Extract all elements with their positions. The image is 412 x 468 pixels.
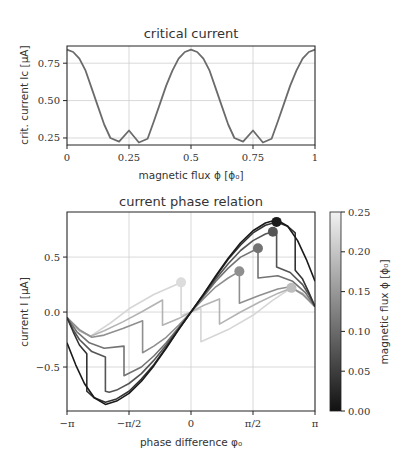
critical-point-marker	[234, 266, 244, 276]
y-axis-label: crit. current Iᴄ [μA]	[18, 45, 30, 144]
colorbar-gradient	[330, 212, 341, 411]
chart-title: current phase relation	[119, 194, 263, 209]
colorbar-ticks: 0.000.050.100.150.200.25	[341, 207, 370, 417]
x-tick-label: 0.25	[118, 152, 140, 163]
x-tick-label: 0.5	[183, 152, 199, 163]
y-tick-label: 0.75	[38, 58, 60, 69]
critical-point-marker	[176, 277, 186, 287]
y-tick-label: 0.50	[38, 95, 60, 106]
grid	[67, 46, 315, 145]
colorbar-tick-label: 0.25	[348, 207, 370, 218]
colorbar: 0.000.050.100.150.200.25 magnetic flux ϕ…	[330, 207, 390, 417]
x-tick-label: π/2	[245, 418, 261, 429]
ticks: −π−π/20π/2π−0.50.00.5	[36, 252, 319, 429]
chart-title: critical current	[144, 26, 239, 41]
colorbar-tick-label: 0.05	[348, 366, 370, 377]
x-tick-label: 1	[312, 152, 318, 163]
colorbar-tick-label: 0.20	[348, 246, 370, 257]
colorbar-tick-label: 0.00	[348, 406, 370, 417]
x-axis-label: phase difference φ₀	[140, 436, 242, 448]
figure: critical current 00.250.50.7510.250.500.…	[0, 0, 412, 468]
current-phase-relation-chart: current phase relation −π−π/20π/2π−0.50.…	[18, 194, 390, 448]
x-tick-label: 0	[188, 418, 194, 429]
y-tick-label: 0.0	[44, 307, 60, 318]
x-tick-label: −π/2	[117, 418, 142, 429]
y-tick-label: 0.5	[44, 252, 60, 263]
y-tick-label: −0.5	[36, 362, 60, 373]
colorbar-label: magnetic flux ϕ [ϕ₀]	[378, 260, 390, 365]
x-axis-label: magnetic flux ϕ [ϕ₀]	[139, 169, 244, 181]
critical-point-marker	[253, 243, 263, 253]
critical-point-marker	[272, 217, 282, 227]
critical-current-chart: critical current 00.250.50.7510.250.500.…	[18, 26, 318, 181]
x-tick-label: π	[312, 418, 319, 429]
x-tick-label: −π	[60, 418, 75, 429]
x-tick-label: 0	[64, 152, 70, 163]
critical-point-marker	[268, 227, 278, 237]
critical-point-marker	[286, 283, 296, 293]
figure-canvas: critical current 00.250.50.7510.250.500.…	[0, 0, 412, 468]
x-tick-label: 0.75	[242, 152, 264, 163]
y-axis-label: current I [μA]	[18, 277, 30, 347]
colorbar-tick-label: 0.15	[348, 286, 370, 297]
y-tick-label: 0.25	[38, 132, 60, 143]
colorbar-tick-label: 0.10	[348, 326, 370, 337]
ticks: 00.250.50.7510.250.500.75	[38, 58, 318, 163]
